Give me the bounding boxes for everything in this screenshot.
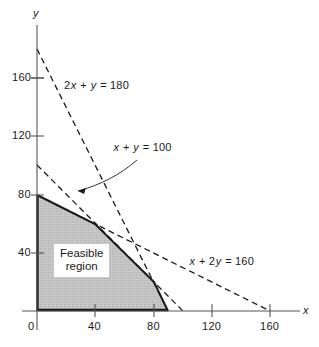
annotation-100-y: y bbox=[133, 141, 140, 153]
feasible-region-label-line2: region bbox=[60, 260, 103, 273]
y-tick-label-80: 80 bbox=[18, 189, 31, 200]
x-axis-label: x bbox=[303, 305, 309, 316]
annotation-2x-plus-y-180: 2x + y = 180 bbox=[64, 80, 129, 91]
annotation-180-y: y bbox=[90, 79, 97, 91]
figure-feasible-region: 160 120 80 40 0 40 80 120 160 y x 2x + y… bbox=[0, 0, 319, 347]
leader-line-x-plus-y-100 bbox=[78, 160, 137, 191]
y-tick-label-40: 40 bbox=[18, 247, 31, 258]
annotation-180-plus: + bbox=[77, 79, 90, 91]
x-tick-label-80: 80 bbox=[147, 321, 160, 332]
plot-canvas bbox=[0, 0, 319, 347]
x-tick-label-0: 0 bbox=[28, 321, 34, 332]
y-axis-label: y bbox=[33, 8, 39, 19]
y-tick-label-120: 120 bbox=[12, 130, 31, 141]
feasible-region-label-line1: Feasible bbox=[60, 247, 103, 260]
annotation-160-eq: = 160 bbox=[222, 255, 254, 267]
annotation-160-y: y bbox=[215, 255, 222, 267]
x-tick-label-120: 120 bbox=[202, 321, 221, 332]
feasible-region-label: Feasible region bbox=[54, 244, 109, 277]
x-tick-label-40: 40 bbox=[88, 321, 101, 332]
annotation-180-eq: = 180 bbox=[97, 79, 129, 91]
annotation-x-plus-y-100: x + y = 100 bbox=[113, 142, 172, 153]
annotation-100-x: x bbox=[113, 141, 120, 153]
annotation-100-plus: + bbox=[120, 141, 133, 153]
x-tick-label-160: 160 bbox=[260, 321, 279, 332]
annotation-100-eq: = 100 bbox=[140, 141, 172, 153]
y-tick-label-160: 160 bbox=[12, 72, 31, 83]
annotation-160-x: x bbox=[189, 255, 196, 267]
annotation-160-plus: + 2 bbox=[196, 255, 215, 267]
annotation-x-plus-2y-160: x + 2y = 160 bbox=[189, 256, 254, 267]
leader-arrowhead bbox=[78, 188, 86, 194]
